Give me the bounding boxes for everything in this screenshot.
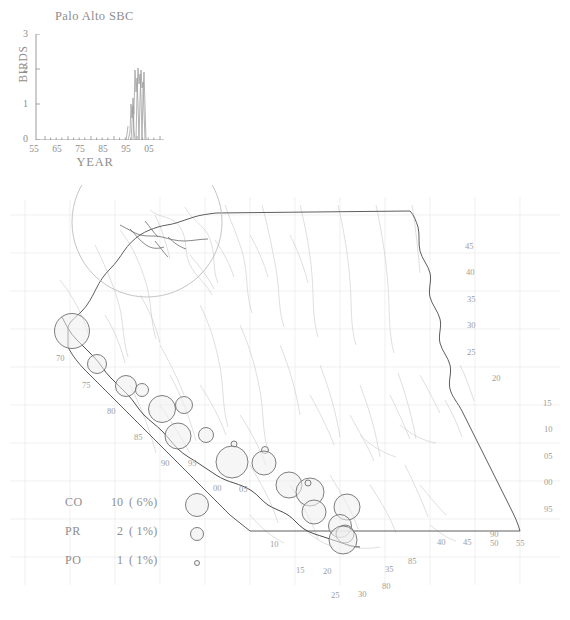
sighting-circle[interactable] bbox=[149, 396, 176, 423]
y-tick-1: 1 bbox=[14, 98, 28, 109]
sighting-circle[interactable] bbox=[252, 451, 276, 475]
map-grid-label: 45 bbox=[465, 241, 474, 251]
sighting-circle[interactable] bbox=[88, 355, 107, 374]
sighting-circle[interactable] bbox=[302, 500, 326, 524]
y-tick-2: 2 bbox=[14, 63, 28, 74]
sighting-circle[interactable] bbox=[55, 314, 90, 349]
map-grid-label: 25 bbox=[331, 590, 340, 600]
sighting-circle[interactable] bbox=[116, 376, 137, 397]
map-grid-label: 45 bbox=[463, 537, 472, 547]
map-grid-label: 85 bbox=[134, 432, 143, 442]
map-grid-label: 15 bbox=[543, 398, 552, 408]
map-grid-label: 80 bbox=[382, 581, 391, 591]
map-grid-label: 35 bbox=[467, 294, 476, 304]
sighting-circle[interactable] bbox=[329, 526, 357, 554]
map-grid-label: 80 bbox=[107, 406, 116, 416]
sighting-circle[interactable] bbox=[136, 384, 149, 397]
sighting-circle[interactable] bbox=[165, 423, 191, 449]
map-grid-label: 30 bbox=[467, 320, 476, 330]
map-grid-label: 85 bbox=[408, 556, 417, 566]
timeseries-title: Palo Alto SBC bbox=[55, 9, 134, 24]
legend-row-co: CO 10 ( 6%) bbox=[55, 492, 235, 518]
legend-symbol-po bbox=[183, 550, 223, 576]
overview-circle bbox=[72, 185, 222, 297]
x-tick-65: 65 bbox=[48, 144, 66, 154]
timeseries-panel: Palo Alto SBC BIRDS YEAR 3 2 1 0 55 65 7… bbox=[0, 0, 200, 180]
bay-detail bbox=[120, 221, 208, 257]
legend-code-co: CO bbox=[65, 495, 83, 510]
map-grid-label: 20 bbox=[492, 373, 501, 383]
sighting-circle[interactable] bbox=[216, 446, 248, 478]
y-tick-0: 0 bbox=[14, 133, 28, 144]
map-grid-label: 15 bbox=[296, 565, 305, 575]
map-grid-label: 95 bbox=[544, 504, 553, 514]
timeseries-x-axis-label: YEAR bbox=[50, 155, 140, 170]
map-grid-label: 75 bbox=[82, 380, 91, 390]
map-grid-label: 20 bbox=[323, 566, 332, 576]
map-grid-label: 00 bbox=[544, 477, 553, 487]
map-grid-label: 55 bbox=[516, 538, 525, 548]
map-grid-label: 35 bbox=[385, 564, 394, 574]
legend-percent-co: ( 6%) bbox=[129, 495, 158, 510]
legend-count-pr: 2 bbox=[103, 524, 123, 539]
map-grid-label: 05 bbox=[544, 451, 553, 461]
legend-percent-po: ( 1%) bbox=[129, 553, 158, 568]
y-tick-3: 3 bbox=[14, 28, 28, 39]
x-tick-95: 95 bbox=[117, 144, 135, 154]
map-grid-label: 90 bbox=[161, 458, 170, 468]
timeseries-series-birds bbox=[126, 68, 146, 140]
sighting-circle[interactable] bbox=[199, 428, 214, 443]
x-tick-75: 75 bbox=[71, 144, 89, 154]
legend-count-co: 10 bbox=[103, 495, 123, 510]
x-tick-85: 85 bbox=[94, 144, 112, 154]
map-grid-label: 10 bbox=[544, 424, 553, 434]
map-grid-label: 50 bbox=[490, 538, 499, 548]
legend-row-pr: PR 2 ( 1%) bbox=[55, 521, 235, 547]
map-grid-label: 95 bbox=[188, 458, 197, 468]
x-tick-05: 05 bbox=[140, 144, 158, 154]
map-grid-label: 70 bbox=[56, 353, 65, 363]
timeseries-plot-area bbox=[34, 34, 164, 140]
legend-symbol-co bbox=[183, 492, 223, 518]
map-grid-label: 05 bbox=[239, 484, 248, 494]
map-grid-label: 30 bbox=[358, 589, 367, 599]
legend-row-po: PO 1 ( 1%) bbox=[55, 550, 235, 576]
map-grid-label: 25 bbox=[467, 347, 476, 357]
legend-code-pr: PR bbox=[65, 524, 81, 539]
legend-percent-pr: ( 1%) bbox=[129, 524, 158, 539]
map-grid-label: 40 bbox=[437, 537, 446, 547]
map-grid-label: 10 bbox=[270, 539, 279, 549]
legend-code-po: PO bbox=[65, 553, 81, 568]
legend-symbol-pr bbox=[183, 521, 223, 547]
legend-count-po: 1 bbox=[103, 553, 123, 568]
map-grid-label: 40 bbox=[466, 267, 475, 277]
sighting-circle[interactable] bbox=[176, 397, 193, 414]
sighting-circle[interactable] bbox=[305, 480, 311, 486]
legend: CO 10 ( 6%) PR 2 ( 1%) PO 1 ( 1%) bbox=[55, 492, 235, 578]
x-tick-55: 55 bbox=[25, 144, 43, 154]
